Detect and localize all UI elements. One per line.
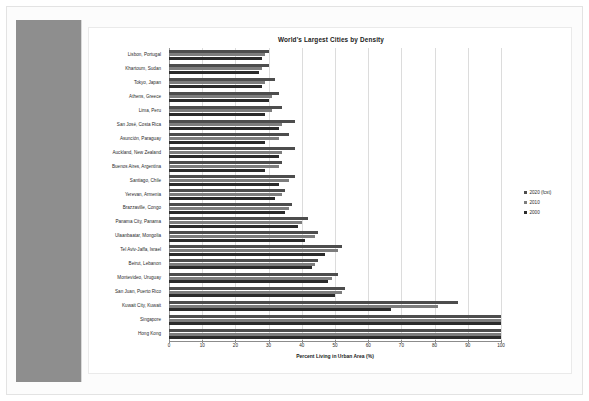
- bar-group: [169, 188, 501, 202]
- bar: [169, 294, 335, 297]
- bar: [169, 99, 269, 102]
- bar: [169, 81, 265, 84]
- bar: [169, 315, 501, 318]
- y-axis-label: Ulaanbaatar, Mongolia: [115, 233, 161, 239]
- y-axis-label: Buenos Aires, Argentina: [112, 164, 161, 170]
- y-axis-label: San José, Costa Rica: [117, 122, 161, 128]
- y-axis-label: Santiago, Chile: [130, 178, 161, 184]
- chart-legend: 2020 (fcst)20102000: [524, 190, 570, 220]
- x-tick-label: 40: [299, 343, 304, 348]
- bar-group: [169, 257, 501, 271]
- bar: [169, 329, 501, 332]
- bar: [169, 175, 295, 178]
- y-axis-label: Singapore: [140, 317, 161, 323]
- x-tick-label: 80: [432, 343, 437, 348]
- bar: [169, 239, 305, 242]
- bar-group: [169, 90, 501, 104]
- y-axis-label: Athens, Greece: [129, 94, 161, 100]
- bar: [169, 123, 282, 126]
- y-axis-label: Tel Aviv-Jaffa, Israel: [120, 247, 161, 253]
- legend-item[interactable]: 2010: [524, 200, 570, 205]
- bar: [169, 221, 302, 224]
- bar: [169, 151, 282, 154]
- bar: [169, 189, 285, 192]
- bar: [169, 193, 282, 196]
- bar-group: [169, 215, 501, 229]
- bar-group: [169, 48, 501, 62]
- y-axis-label: Lisbon, Portugal: [128, 52, 161, 58]
- bar: [169, 277, 332, 280]
- bar-group: [169, 146, 501, 160]
- gridline-100: [501, 48, 502, 341]
- bar: [169, 161, 282, 164]
- bar: [169, 280, 328, 283]
- legend-item[interactable]: 2000: [524, 210, 570, 215]
- legend-swatch-icon: [524, 191, 527, 194]
- bar: [169, 141, 265, 144]
- bar-group: [169, 285, 501, 299]
- legend-label: 2020 (fcst): [530, 190, 552, 195]
- bar: [169, 85, 262, 88]
- bar: [169, 53, 265, 56]
- legend-swatch-icon: [524, 201, 527, 204]
- bar: [169, 305, 438, 308]
- bar-group: [169, 118, 501, 132]
- bar: [169, 287, 345, 290]
- y-axis-label: Yerevan, Armenia: [125, 192, 161, 198]
- x-tick-label: 90: [465, 343, 470, 348]
- bar: [169, 203, 292, 206]
- x-tick-label: 0: [168, 343, 171, 348]
- bar: [169, 263, 315, 266]
- y-axis-label: Beirut, Lebanon: [129, 261, 161, 267]
- bar: [169, 249, 338, 252]
- x-axis-title: Percent Living in Urban Area (%): [169, 353, 501, 359]
- bar: [169, 165, 279, 168]
- bar: [169, 301, 458, 304]
- bar: [169, 211, 285, 214]
- bar: [169, 57, 262, 60]
- y-axis-label: Montevideo, Uruguay: [117, 275, 161, 281]
- x-tick-label: 50: [332, 343, 337, 348]
- bar: [169, 137, 279, 140]
- bar: [169, 259, 318, 262]
- bar: [169, 291, 342, 294]
- x-tick-label: 20: [233, 343, 238, 348]
- bar-group: [169, 327, 501, 341]
- y-axis-label: Lima, Peru: [139, 108, 161, 114]
- bar-group: [169, 229, 501, 243]
- bar: [169, 133, 289, 136]
- legend-label: 2010: [530, 200, 540, 205]
- bar-group: [169, 104, 501, 118]
- y-axis-label: Hong Kong: [138, 331, 161, 337]
- bar: [169, 50, 269, 53]
- y-axis-label: San Juan, Puerto Rico: [115, 289, 161, 295]
- side-panel[interactable]: [16, 20, 82, 382]
- chart-title: World's Largest Cities by Density: [89, 36, 573, 43]
- bar-group: [169, 243, 501, 257]
- bar-group: [169, 160, 501, 174]
- bar: [169, 92, 279, 95]
- bar: [169, 155, 279, 158]
- bar: [169, 217, 308, 220]
- bar: [169, 319, 501, 322]
- bar: [169, 169, 265, 172]
- legend-label: 2000: [530, 210, 540, 215]
- y-axis-label: Auckland, New Zealand: [112, 150, 161, 156]
- bar: [169, 179, 289, 182]
- plot-area: [169, 48, 501, 341]
- bar: [169, 266, 312, 269]
- x-tick-label: 10: [200, 343, 205, 348]
- bar: [169, 95, 272, 98]
- bar: [169, 308, 391, 311]
- legend-item[interactable]: 2020 (fcst): [524, 190, 570, 195]
- bar-group: [169, 299, 501, 313]
- bar-group: [169, 174, 501, 188]
- bar: [169, 183, 279, 186]
- x-tick-label: 70: [399, 343, 404, 348]
- x-tick-label: 30: [266, 343, 271, 348]
- bar-group: [169, 132, 501, 146]
- x-axis-ticks: 0102030405060708090100: [169, 343, 501, 353]
- bar: [169, 253, 325, 256]
- bar: [169, 235, 315, 238]
- bar: [169, 207, 289, 210]
